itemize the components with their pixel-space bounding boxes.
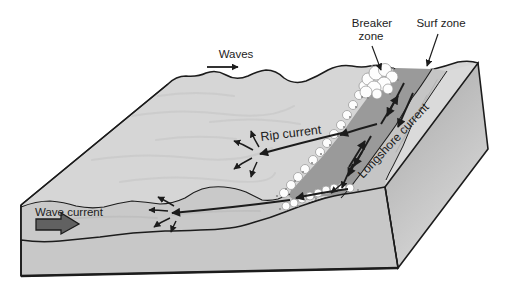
- foam-puff: [280, 189, 289, 198]
- foam-puff: [343, 111, 352, 120]
- breaker-zone-label-line2: zone: [359, 30, 384, 42]
- figure-nearshore-currents: Waves Breaker zone Surf zone Rip current…: [0, 0, 509, 293]
- foam-puff: [346, 184, 354, 192]
- foam-puff: [349, 101, 358, 110]
- foam-puff: [372, 89, 382, 99]
- breaker-zone-label-line1: Breaker: [352, 17, 392, 29]
- wave-current-label: Wave current: [35, 206, 104, 218]
- foam-puff: [287, 181, 296, 190]
- foam-puff: [337, 121, 346, 130]
- surf-zone-leader-arrow: [427, 34, 438, 66]
- waves-label: Waves: [219, 48, 254, 60]
- nearshore-currents-diagram: Waves Breaker zone Surf zone Rip current…: [0, 0, 509, 293]
- foam-puff: [323, 139, 332, 148]
- foam-puff: [383, 84, 393, 94]
- foam-puff: [290, 199, 298, 207]
- foam-puff: [316, 148, 325, 157]
- surf-zone-label: Surf zone: [416, 17, 465, 29]
- foam-puff: [301, 165, 310, 174]
- foam-puff: [282, 202, 290, 210]
